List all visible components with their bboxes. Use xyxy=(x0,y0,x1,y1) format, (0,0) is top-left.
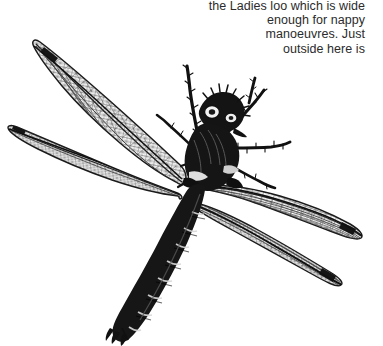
page-root: the Ladies loo which is wide enough for … xyxy=(0,0,383,346)
caption-text: the Ladies loo which is wide enough for … xyxy=(150,0,365,56)
caption-line-4: outside here is xyxy=(150,42,365,56)
caption-line-3: manoeuvres. Just xyxy=(150,27,365,41)
caption-line-2: enough for nappy xyxy=(150,13,365,27)
caption-line-1: the Ladies loo which is wide xyxy=(150,0,365,13)
